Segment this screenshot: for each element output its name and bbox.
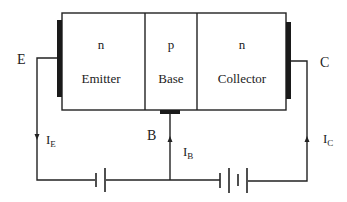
collector-contact [286,22,291,99]
collector-terminal-label: C [320,55,329,70]
collector-name-label: Collector [218,71,267,86]
emitter-terminal-label: E [17,52,26,67]
transistor-body [62,13,286,110]
emitter-name-label: Emitter [82,71,122,86]
npn-transistor-diagram: n Emitter p Base n Collector E B C IE [0,0,347,202]
emitter-type-label: n [98,37,105,52]
collector-type-label: n [239,37,246,52]
emitter-current-arrow-icon [35,134,40,140]
emitter-base-battery [96,168,105,192]
base-current-label: IB [183,144,193,161]
collector-current-label: IC [323,131,333,148]
collector-base-battery [220,168,247,193]
emitter-contact [57,20,62,97]
base-contact [160,110,180,114]
base-terminal-label: B [147,128,156,143]
base-type-label: p [168,37,175,52]
collector-current-arrow-icon [305,136,310,142]
emitter-region: n Emitter [82,37,122,86]
base-current-arrow-icon [168,136,173,142]
transistor-outline [62,13,286,110]
emitter-current-label: IE [46,132,56,149]
collector-region: n Collector [218,37,267,86]
base-region: p Base [158,37,184,86]
base-name-label: Base [158,71,184,86]
